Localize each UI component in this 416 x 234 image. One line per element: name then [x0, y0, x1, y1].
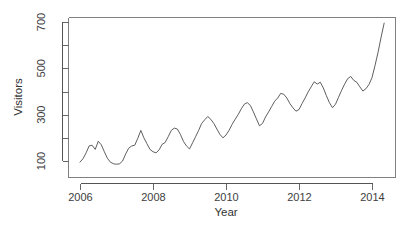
y-axis-tick-label: 100 — [35, 152, 47, 170]
y-axis: 100300500700 — [35, 13, 69, 170]
y-axis-tick-label: 700 — [35, 13, 47, 31]
x-axis-tick-label: 2012 — [287, 191, 311, 203]
visitors-time-series-chart: 100300500700 20062008201020122014 Visito… — [0, 0, 416, 234]
x-axis-ticks — [81, 184, 373, 190]
y-axis-tick-labels: 100300500700 — [35, 13, 47, 170]
x-axis-tick-labels: 20062008201020122014 — [68, 191, 384, 203]
plot-frame — [69, 18, 396, 178]
y-axis-ticks — [63, 23, 69, 162]
x-axis-tick-label: 2008 — [141, 191, 165, 203]
x-axis-title: Year — [214, 206, 237, 218]
series-group — [80, 23, 384, 164]
x-axis-tick-label: 2014 — [360, 191, 384, 203]
y-axis-tick-label: 300 — [35, 106, 47, 124]
y-axis-tick-label: 500 — [35, 59, 47, 77]
visitors-line-series — [80, 23, 384, 164]
y-axis-title: Visitors — [12, 78, 24, 116]
x-axis: 20062008201020122014 — [68, 184, 384, 204]
x-axis-tick-label: 2006 — [68, 191, 92, 203]
chart-screenshot: 100300500700 20062008201020122014 Visito… — [0, 0, 416, 234]
x-axis-tick-label: 2010 — [214, 191, 238, 203]
